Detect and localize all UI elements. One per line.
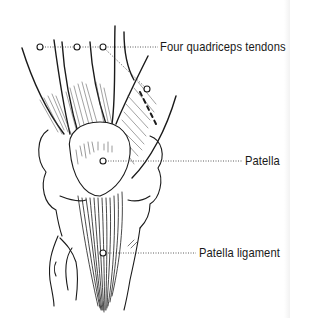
marker-ligament	[100, 250, 106, 256]
marker-quadriceps-1	[37, 44, 43, 50]
dashed-muscle-edge	[140, 92, 156, 124]
tibia-outline	[49, 228, 140, 310]
marker-patella	[100, 158, 106, 164]
label-patella: Patella	[245, 153, 280, 168]
marker-quadriceps-3	[100, 44, 106, 50]
marker-quadriceps-4	[144, 86, 150, 92]
tibia-hatch	[128, 240, 137, 248]
patella-shape	[69, 122, 130, 196]
label-patella-ligament: Patella ligament	[199, 245, 280, 260]
label-quadriceps-tendons: Four quadriceps tendons	[160, 39, 286, 54]
marker-quadriceps-2	[74, 44, 80, 50]
